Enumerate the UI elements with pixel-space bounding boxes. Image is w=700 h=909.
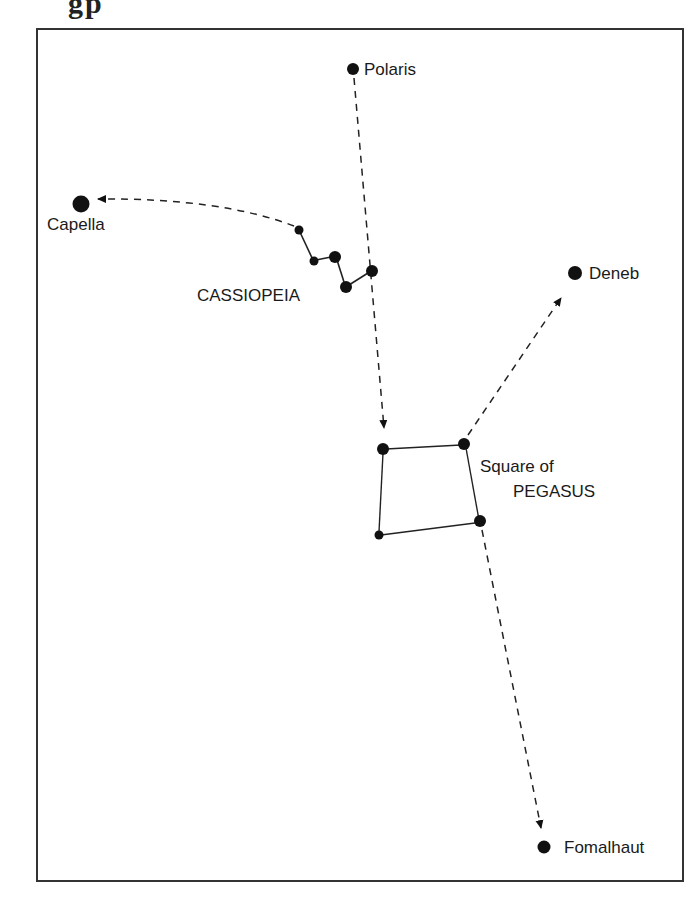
pointer-to-deneb (468, 298, 561, 435)
label-cassiopeia: CASSIOPEIA (197, 286, 301, 305)
pointer-to-fomalhaut (482, 530, 541, 828)
star-cassiopeia-2 (310, 257, 319, 266)
star-cassiopeia-1 (295, 226, 304, 235)
pegasus-square-lines (379, 445, 479, 535)
label-pegasus: PEGASUS (513, 482, 595, 501)
label-square-of: Square of (480, 457, 554, 476)
star-map: Polaris Capella CASSIOPEIA Deneb Square … (0, 0, 700, 909)
label-fomalhaut: Fomalhaut (564, 838, 645, 857)
label-capella: Capella (47, 215, 105, 234)
star-pegasus-ne (458, 438, 470, 450)
star-pegasus-nw (377, 443, 389, 455)
map-frame (37, 29, 683, 881)
star-cassiopeia-3 (329, 251, 341, 263)
pointer-to-capella (98, 199, 294, 226)
pointer-polaris-to-pegasus (354, 78, 384, 428)
label-polaris: Polaris (364, 60, 416, 79)
star-capella (73, 196, 90, 213)
star-polaris (347, 63, 359, 75)
star-cassiopeia-5 (366, 265, 378, 277)
star-fomalhaut (538, 841, 551, 854)
star-deneb (568, 266, 582, 280)
label-deneb: Deneb (589, 264, 639, 283)
star-pegasus-sw (375, 531, 384, 540)
star-cassiopeia-4 (340, 281, 352, 293)
star-pegasus-se (474, 515, 486, 527)
